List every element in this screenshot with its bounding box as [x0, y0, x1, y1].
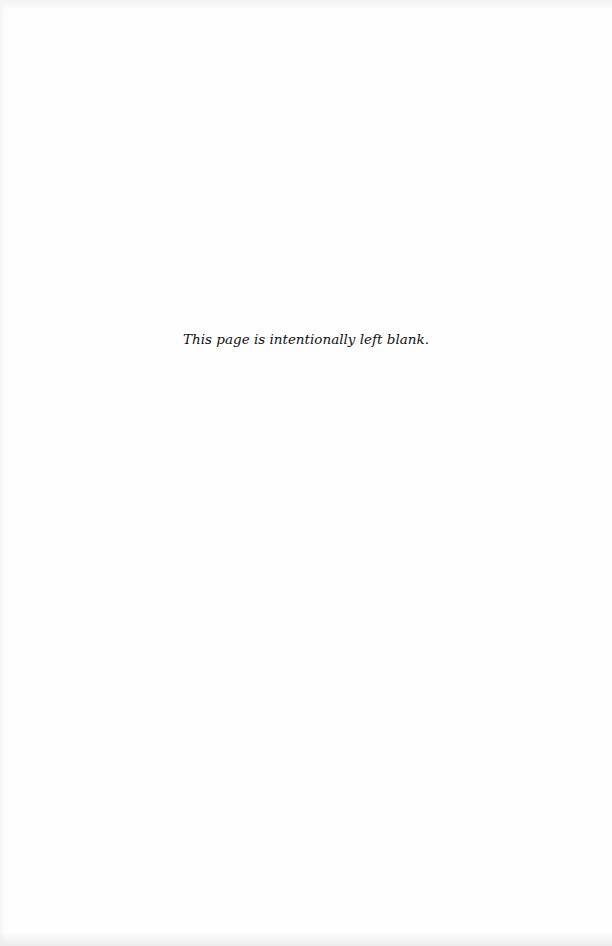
scan-edge-bottom [0, 932, 612, 946]
blank-page: This page is intentionally left blank. [0, 0, 612, 946]
scan-edge-top [0, 0, 612, 10]
scan-edge-left [0, 0, 6, 946]
blank-page-notice: This page is intentionally left blank. [0, 331, 612, 347]
